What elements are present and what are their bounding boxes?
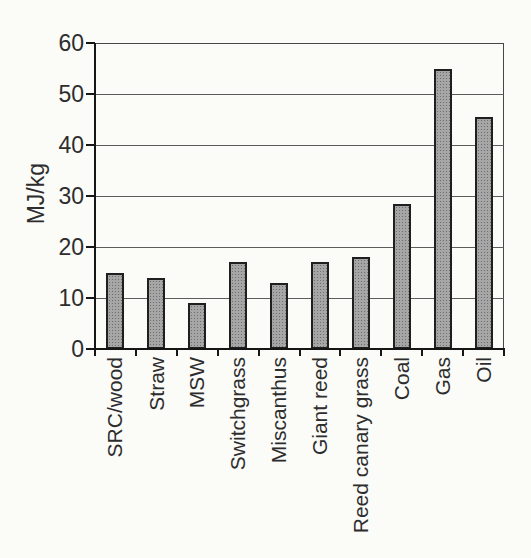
x-boundary-tick-10 bbox=[503, 349, 505, 356]
x-label-coal: Coal bbox=[390, 357, 414, 400]
x-axis-line bbox=[94, 348, 505, 351]
x-label-giant-reed: Giant reed bbox=[308, 357, 332, 455]
bar-coal bbox=[393, 204, 411, 349]
bar-oil bbox=[475, 117, 493, 349]
x-label-gas: Gas bbox=[431, 357, 455, 396]
x-boundary-tick-1 bbox=[135, 349, 137, 356]
bar-giant-reed bbox=[311, 262, 329, 349]
x-boundary-tick-4 bbox=[258, 349, 260, 356]
x-boundary-tick-9 bbox=[462, 349, 464, 356]
x-boundary-tick-5 bbox=[299, 349, 301, 356]
x-boundary-tick-3 bbox=[217, 349, 219, 356]
x-boundary-tick-6 bbox=[339, 349, 341, 356]
bar-miscanthus bbox=[270, 283, 288, 349]
x-label-switchgrass: Switchgrass bbox=[226, 357, 250, 470]
x-label-oil: Oil bbox=[472, 357, 496, 383]
bar-straw bbox=[147, 278, 165, 349]
plot-area bbox=[95, 43, 504, 349]
x-boundary-tick-2 bbox=[176, 349, 178, 356]
x-boundary-tick-8 bbox=[421, 349, 423, 356]
y-tick-label-0: 0 bbox=[42, 336, 84, 362]
y-tick-label-10: 10 bbox=[42, 285, 84, 311]
y-tick-label-40: 40 bbox=[42, 132, 84, 158]
bar-gas bbox=[434, 69, 452, 350]
x-label-msw: MSW bbox=[185, 357, 209, 408]
bar-reed-canary-grass bbox=[352, 257, 370, 349]
bar-msw bbox=[188, 303, 206, 349]
x-boundary-tick-7 bbox=[380, 349, 382, 356]
bar-src-wood bbox=[106, 273, 124, 350]
y-tick-label-60: 60 bbox=[42, 30, 84, 56]
y-tick-label-30: 30 bbox=[42, 183, 84, 209]
x-boundary-tick-0 bbox=[94, 349, 96, 356]
x-label-miscanthus: Miscanthus bbox=[267, 357, 291, 463]
y-axis-line bbox=[94, 43, 96, 349]
x-label-straw: Straw bbox=[144, 357, 168, 411]
x-label-src-wood: SRC/wood bbox=[103, 357, 127, 457]
bar-switchgrass bbox=[229, 262, 247, 349]
bar-chart: MJ/kg 0102030405060 SRC/woodStrawMSWSwit… bbox=[0, 0, 531, 558]
y-tick-label-20: 20 bbox=[42, 234, 84, 260]
y-tick-label-50: 50 bbox=[42, 81, 84, 107]
x-label-reed-canary-grass: Reed canary grass bbox=[349, 357, 373, 533]
